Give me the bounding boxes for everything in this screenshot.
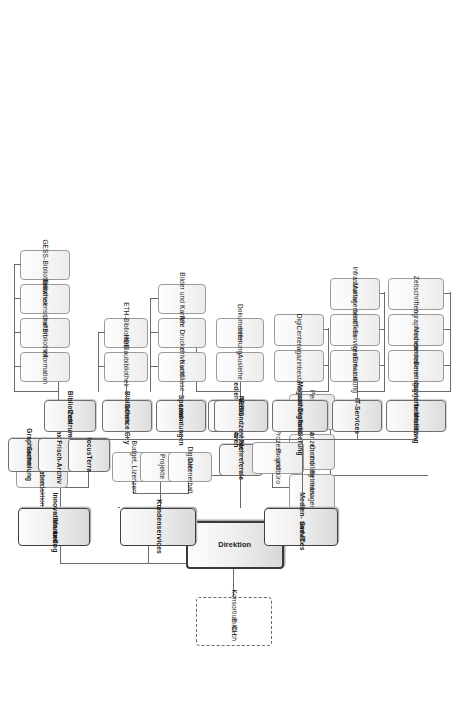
connector [380, 293, 385, 294]
connector [328, 328, 329, 392]
connector [60, 546, 61, 564]
node-bilder-karten[interactable]: Bilder und Karten [158, 284, 206, 314]
node-gess-bibliothek[interactable]: GESS-Bibliothek [20, 250, 70, 280]
node-label: Alte Drucke [164, 329, 199, 337]
connector [416, 391, 451, 392]
connector [14, 332, 21, 333]
connector [118, 507, 120, 508]
node-eth-bibliothek-hdb[interactable]: ETH-Bibliothek HDB [104, 318, 148, 348]
connector [14, 264, 21, 265]
connector [60, 488, 61, 508]
connector [357, 432, 358, 440]
connector [380, 365, 385, 366]
node-label: ETH-Bibliothek HDB [103, 320, 148, 345]
node-label: focusTerra [72, 451, 107, 459]
node-label: Direktion [219, 540, 252, 549]
node-label: DigiCenter [283, 326, 315, 334]
connector [357, 391, 385, 392]
connector [240, 439, 416, 440]
connector [444, 365, 451, 366]
org-chart-canvas: Direktion Konsortium CH E-lib.ch Betrieb… [0, 0, 466, 704]
node-label: Prozess- und Projektbüro [258, 445, 298, 470]
node-monographische-medien[interactable]: Monographische Medien [388, 314, 444, 346]
node-label: Dokumenten- lieferung [220, 320, 261, 345]
node-label: Kundenservices [131, 523, 186, 532]
node-label: NEBIS- Verbundzentrale [215, 403, 268, 428]
connector [450, 292, 451, 392]
connector [14, 366, 21, 367]
connector [88, 472, 89, 488]
connector [240, 476, 241, 508]
node-kundenservices[interactable]: Kundenservices [120, 508, 196, 546]
node-spezialsammlungen[interactable]: Spezial- sammlungen [156, 400, 206, 432]
node-label: Information [28, 363, 62, 371]
node-label: Magazinbestand und Digitalisierung [269, 403, 331, 428]
node-label: Infrastruktur- Management [335, 281, 375, 306]
node-it-services[interactable]: IT-Services [332, 400, 382, 432]
connector [300, 432, 301, 440]
connector [60, 563, 150, 564]
connector [127, 432, 128, 440]
node-focusterra[interactable]: focusTerra [68, 438, 110, 472]
node-label: Monographische Medien [391, 317, 441, 342]
connector [150, 298, 151, 392]
node-medien-it-services[interactable]: Medien- und IT- Services [264, 508, 338, 546]
connector [302, 440, 303, 508]
node-bibliothek-science-city[interactable]: Bibliothek Science City [102, 400, 152, 432]
connector [70, 432, 71, 440]
connector [150, 366, 158, 367]
node-digitaler-datenerhalt[interactable]: Digitaler Datenerhalt [168, 452, 212, 482]
node-digicenter[interactable]: DigiCenter [274, 314, 324, 346]
node-label: Magazinbestand [274, 362, 324, 370]
node-label: Ausleihe [227, 363, 253, 371]
connector [150, 298, 158, 299]
node-label: Bibliothek Zentrum [54, 403, 87, 428]
node-label: Konsortium CH E-lib.ch [211, 609, 257, 634]
connector [126, 382, 127, 400]
node-label: IT-Services [339, 412, 375, 420]
connector [300, 391, 329, 392]
connector [58, 382, 59, 400]
node-label: GESS-Bibliothek [20, 261, 71, 269]
connector [324, 329, 329, 330]
connector [14, 264, 15, 392]
node-konsortium-ch[interactable]: Konsortium CH E-lib.ch [196, 597, 272, 646]
connector [98, 366, 105, 367]
node-bibliothek-zentrum[interactable]: Bibliothek Zentrum [44, 400, 96, 432]
node-label: Archive und Nachlässe [164, 354, 200, 379]
connector [98, 332, 105, 333]
node-label: Integration und Entwicklung [332, 353, 378, 378]
connector [160, 482, 161, 494]
node-archive-nachlaesse[interactable]: Archive und Nachlässe [158, 352, 206, 382]
connector [150, 332, 158, 333]
node-innovation-marketing[interactable]: Innovation und Marketing [18, 508, 90, 546]
connector [241, 432, 242, 440]
node-label: Medien- und IT- Services [275, 514, 327, 540]
connector [148, 546, 149, 564]
connector [444, 293, 451, 294]
node-zeitschriften[interactable]: Zeitschriften [388, 278, 444, 310]
node-dokumentenlieferung[interactable]: Dokumenten- lieferung [216, 318, 264, 348]
connector [98, 332, 99, 392]
node-label: Bibliothek Science City [107, 403, 147, 428]
node-nebis-verbundzentrale[interactable]: NEBIS- Verbundzentrale [214, 400, 268, 432]
connector [14, 298, 21, 299]
connector [384, 292, 385, 392]
connector [416, 432, 417, 440]
node-label: Bilder und Karten [156, 295, 209, 303]
node-label: Zeitschriften [397, 290, 434, 298]
node-label: Digitaler Datenerhalt [172, 454, 207, 479]
connector [181, 432, 182, 440]
connector [324, 365, 329, 366]
connector [380, 329, 385, 330]
node-magazinbestand-digitalisierung[interactable]: Magazinbestand und Digitalisierung [272, 400, 328, 432]
connector [196, 391, 240, 392]
node-label: Innovation und Marketing [29, 514, 80, 540]
node-infrastruktur-management[interactable]: Infrastruktur- Management [330, 278, 380, 310]
node-magazinbestand[interactable]: Magazinbestand [274, 350, 324, 382]
node-label: Spezial- sammlungen [160, 403, 202, 428]
connector [444, 329, 451, 330]
connector [14, 391, 58, 392]
connector [70, 439, 242, 440]
connector [182, 382, 183, 400]
